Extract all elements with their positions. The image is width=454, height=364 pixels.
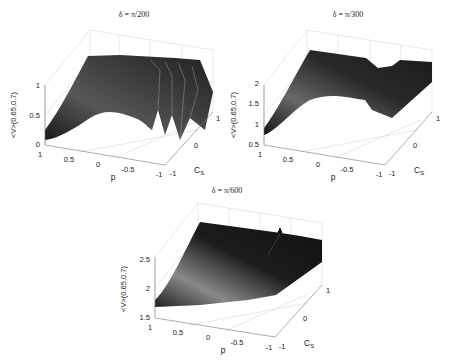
z-axis-label: <V>(0.65,0.7) — [119, 266, 128, 312]
y-tick: 1 — [326, 286, 330, 295]
panel-delta-pi-200: δ = π/200 0 0.5 1 <V>(0.65,0.7) 1 — [9, 10, 220, 182]
x-tick: 0.5 — [173, 328, 183, 337]
z-tick: 1.5 — [249, 99, 259, 108]
z-tick: 0.5 — [30, 111, 40, 120]
y-tick: 0 — [194, 141, 198, 150]
x-tick: -1 — [266, 343, 273, 352]
z-tick: 0.5 — [249, 140, 259, 149]
surface-plot — [264, 50, 432, 135]
y-tick: 0 — [413, 141, 417, 150]
z-axis-label: <V>(0.65,0.7) — [229, 92, 238, 138]
surface-plot — [155, 222, 322, 307]
z-tick: 2 — [146, 284, 150, 293]
y-tick: 1 — [436, 114, 440, 123]
x-tick: 1 — [258, 150, 262, 159]
y-axis-label: CS — [304, 338, 314, 349]
z-tick: 1.5 — [140, 313, 150, 322]
y-tick: 1 — [216, 114, 220, 123]
x-tick: -1 — [376, 170, 383, 179]
x-tick: -1 — [156, 170, 163, 179]
x-tick: 0 — [316, 160, 320, 169]
panel-title: δ = π/300 — [333, 10, 364, 19]
z-tick: 2 — [255, 79, 259, 88]
x-tick: 0 — [96, 160, 100, 169]
y-tick: -1 — [389, 169, 396, 178]
x-tick: 0.5 — [64, 155, 74, 164]
x-tick: -0.5 — [122, 165, 135, 174]
y-tick: -1 — [170, 169, 177, 178]
x-axis-label: p — [111, 172, 116, 182]
panel-title: δ = π/200 — [119, 10, 150, 19]
x-tick: 1 — [148, 323, 152, 332]
y-tick: 0 — [303, 314, 307, 323]
z-tick: 1 — [255, 120, 259, 129]
z-tick: 1 — [36, 81, 40, 90]
y-axis-label: CS — [194, 165, 204, 176]
x-tick: -0.5 — [231, 338, 244, 347]
z-tick: 0 — [36, 140, 40, 149]
x-axis-label: p — [221, 345, 226, 355]
x-axis-label: p — [331, 172, 336, 182]
panel-delta-pi-300: δ = π/300 0.5 1 1.5 2 <V>(0.65,0.7) 1 0.… — [229, 10, 440, 182]
panel-delta-pi-600: δ = π/600 1.5 2 2.5 <V>(0.65,0.7) 1 0.5 … — [119, 186, 330, 355]
x-tick: 0 — [206, 333, 210, 342]
z-axis-label: <V>(0.65,0.7) — [9, 92, 18, 138]
surface-plot — [45, 55, 213, 140]
panel-title: δ = π/600 — [212, 186, 243, 195]
z-tick: 2.5 — [140, 255, 150, 264]
figure-canvas: δ = π/200 0 0.5 1 <V>(0.65,0.7) 1 — [0, 0, 454, 364]
y-tick: -1 — [279, 342, 286, 351]
x-tick: -0.5 — [341, 165, 354, 174]
y-axis-label: CS — [414, 165, 424, 176]
x-tick: 1 — [38, 150, 42, 159]
x-tick: 0.5 — [283, 155, 293, 164]
